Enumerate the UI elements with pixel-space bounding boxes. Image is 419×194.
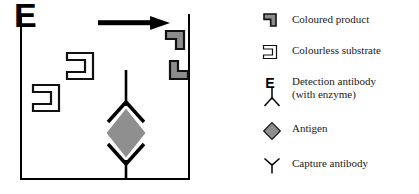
legend-item-antigen: Antigen (262, 121, 419, 141)
legend-item-detection-antibody: E Detection antibody (with enzyme) (262, 74, 419, 108)
antibody-antigen-sandwich (98, 36, 154, 180)
legend-label: Capture antibody (292, 156, 368, 170)
coloured-product-shape (163, 28, 187, 52)
legend-label: Detection antibody (with enzyme) (292, 74, 376, 101)
reaction-arrow-icon (98, 16, 170, 30)
colourless-substrate-icon (262, 43, 292, 61)
legend-label: Colourless substrate (292, 43, 381, 57)
capture-antibody-icon (262, 156, 292, 176)
reaction-well-panel: E (0, 0, 210, 194)
enzyme-label: E (14, 0, 36, 32)
legend-item-colourless-substrate: Colourless substrate (262, 43, 419, 61)
colourless-substrate-shape (64, 50, 96, 82)
legend: Coloured product Colourless substrate E … (262, 0, 419, 194)
legend-item-capture-antibody: Capture antibody (262, 156, 419, 176)
colourless-substrate-shape (30, 82, 62, 114)
antigen-icon (262, 121, 292, 141)
detection-antibody-icon: E (262, 74, 292, 108)
elisa-diagram-figure: E Coloured product Colourless substrate (0, 0, 419, 194)
coloured-product-icon (262, 12, 292, 28)
svg-text:E: E (265, 75, 274, 91)
coloured-product-shape (167, 58, 191, 82)
legend-item-coloured-product: Coloured product (262, 12, 419, 28)
legend-label: Antigen (292, 121, 327, 135)
legend-label: Coloured product (292, 12, 369, 26)
